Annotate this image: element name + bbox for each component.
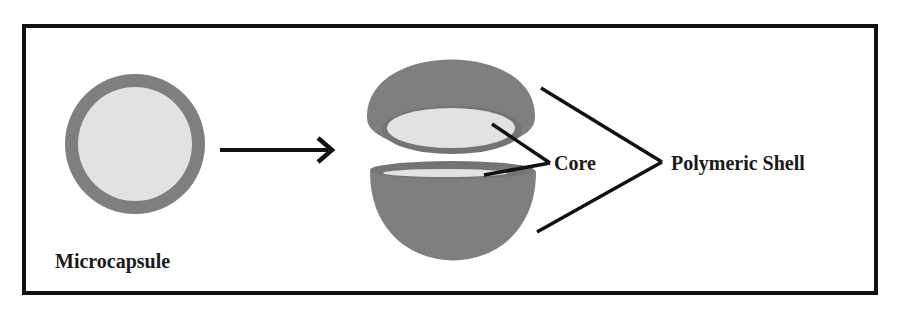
microcapsule-label: Microcapsule: [55, 250, 170, 273]
core-label: Core: [554, 152, 596, 174]
microcapsule-diagram: Microcapsule Core Polymeric Shell: [0, 0, 898, 311]
open-capsule-top-half: [367, 60, 535, 155]
open-capsule-bottom-half: [370, 161, 536, 261]
arrow-icon: [220, 138, 332, 162]
polymeric-shell-label: Polymeric Shell: [671, 152, 805, 175]
intact-microcapsule: [65, 74, 205, 214]
